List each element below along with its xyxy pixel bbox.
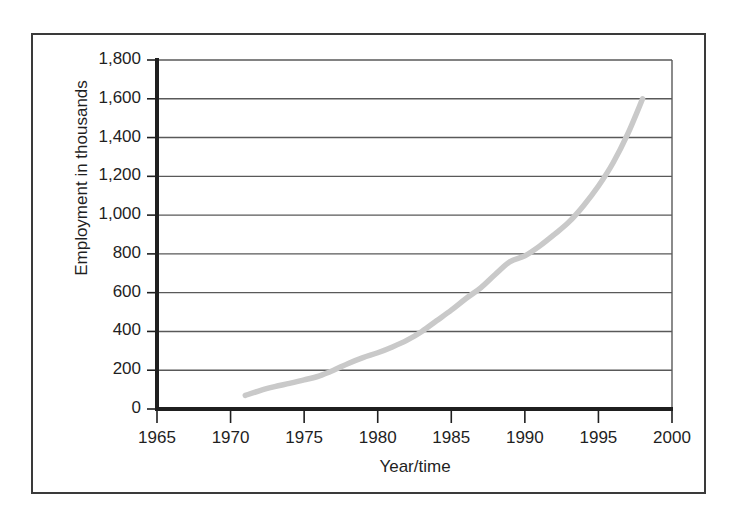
x-tick-label: 1985 [420,428,482,448]
x-tick-label: 1965 [126,428,188,448]
x-tick-label: 1980 [347,428,409,448]
x-tick-label: 1995 [567,428,629,448]
chart-figure: 02004006008001,0001,2001,4001,6001,800 1… [0,0,739,525]
x-tick-label: 1970 [200,428,262,448]
y-axis-title: Employment in thousands [72,48,92,308]
x-axis-title: Year/time [157,457,673,477]
y-tick-label: 200 [69,359,141,379]
y-tick-label: 400 [69,320,141,340]
x-tick-label: 1990 [494,428,556,448]
y-tick-label: 0 [69,398,141,418]
x-tick-label: 1975 [273,428,335,448]
x-tick-label: 2000 [641,428,703,448]
